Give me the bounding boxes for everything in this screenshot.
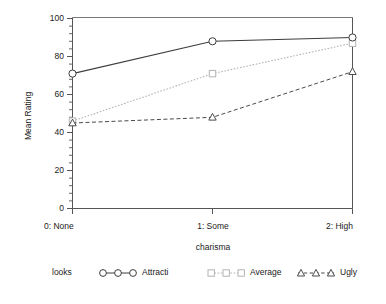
y-axis-minor-ticks xyxy=(69,26,73,201)
y-axis-title: Mean Rating xyxy=(24,92,33,140)
x-tick-label-high: 2: High xyxy=(326,222,384,231)
y-tick-label-40: 40 xyxy=(38,128,64,137)
y-tick-label-100: 100 xyxy=(38,14,64,23)
x-tick-label-some: 1: Some xyxy=(184,222,242,231)
y-axis-major-ticks xyxy=(67,19,73,209)
x-axis-title: charisma xyxy=(184,243,242,252)
circle-marker-icon xyxy=(96,262,140,284)
y-tick-label-0: 0 xyxy=(38,204,64,213)
chart-figure: 100 80 60 40 20 0 Mean Rating 0: None 1:… xyxy=(0,0,386,304)
square-marker-icon xyxy=(204,262,248,284)
legend-title: looks xyxy=(52,268,72,277)
y-tick-label-60: 60 xyxy=(38,90,64,99)
legend-label-attracti: Attracti xyxy=(142,268,168,277)
y-tick-label-20: 20 xyxy=(38,166,64,175)
x-tick-label-none: 0: None xyxy=(44,222,102,231)
legend-label-average: Average xyxy=(250,268,282,277)
y-tick-label-80: 80 xyxy=(38,52,64,61)
series-average xyxy=(69,40,355,124)
plot-area xyxy=(0,0,386,304)
triangle-marker-icon xyxy=(294,262,338,284)
x-axis-ticks xyxy=(73,209,353,215)
legend-label-ugly: Ugly xyxy=(340,268,357,277)
legend: looks Attracti Average xyxy=(0,262,386,286)
